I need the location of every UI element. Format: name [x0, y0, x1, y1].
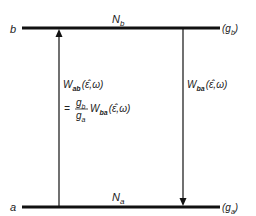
lower-degeneracy: (ga) — [222, 202, 238, 215]
fraction-numerator: gb — [76, 97, 86, 110]
equals-sign: = — [64, 103, 70, 114]
upper-level-label: b — [10, 23, 16, 35]
absorption-rhs: Wba(ε̂,ω) — [90, 103, 130, 116]
energy-level-diagram: b Nb (gb) a Na (ga) Wab(ε̂,ω) = gb ga Wb… — [0, 0, 256, 216]
lower-level-label: a — [10, 201, 16, 213]
absorption-rate-label: Wab(ε̂,ω) — [63, 79, 103, 92]
upper-degeneracy: (gb) — [222, 23, 238, 36]
lower-population: Na — [112, 191, 125, 206]
emission-rate-label: Wba(ε̂,ω) — [187, 79, 227, 92]
down-arrow-icon — [180, 198, 187, 206]
fraction-denominator: ga — [76, 110, 86, 123]
up-arrow-icon — [56, 29, 63, 37]
upper-population: Nb — [112, 13, 125, 28]
diagram-canvas: b Nb (gb) a Na (ga) Wab(ε̂,ω) = gb ga Wb… — [0, 0, 256, 216]
